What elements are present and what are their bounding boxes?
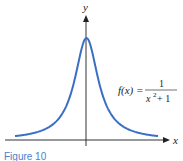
x-axis-arrow-icon [163, 137, 170, 143]
y-axis-arrow-icon [83, 15, 89, 22]
x-axis-label: x [172, 134, 178, 146]
function-numerator: 1 [159, 78, 164, 89]
figure-caption: Figure 10 [4, 151, 46, 161]
y-axis-label: y [82, 1, 88, 13]
function-denominator-base: x [145, 93, 151, 104]
function-lhs: f(x) = [118, 84, 143, 97]
chart-canvas: y x f(x) = 1 x 2 + 1 [0, 0, 183, 161]
function-denominator-rest: + 1 [157, 93, 170, 104]
